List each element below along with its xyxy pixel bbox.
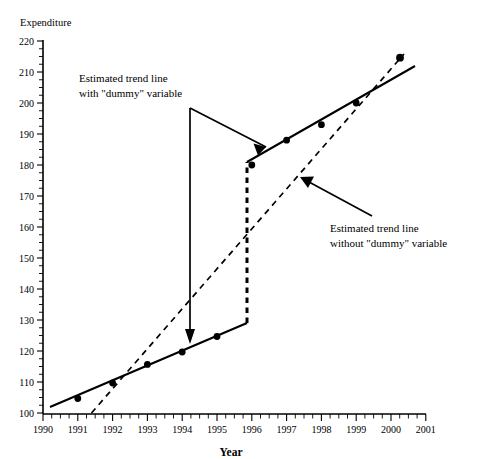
- x-tick-label: 1994: [172, 424, 192, 435]
- annotation-without-dummy-line2: without "dummy" variable: [330, 237, 447, 249]
- x-tick-label: 1991: [68, 424, 88, 435]
- arrow-to-1994-point: [185, 108, 195, 344]
- arrow-to-dashed-line: [300, 177, 372, 217]
- arrow-to-jump-top: [190, 108, 266, 156]
- annotation-with-dummy: Estimated trend line with "dummy" variab…: [79, 72, 182, 99]
- y-tick-label: 120: [19, 346, 34, 357]
- chart-canvas: 220 210 200 190 180 170 160 150 140 130 …: [0, 0, 478, 459]
- data-point-1993: [144, 361, 151, 368]
- y-tick-label: 190: [19, 129, 34, 140]
- data-point-1991: [74, 395, 81, 402]
- y-tick-label: 210: [19, 67, 34, 78]
- x-tick-label: 1999: [346, 424, 366, 435]
- arrowhead-to-dashed-line: [300, 177, 314, 189]
- annotation-with-dummy-line2: with "dummy" variable: [79, 87, 182, 99]
- x-axis-tick-labels: 1990 1991 1992 1993 1994 1995 1996 1997 …: [33, 424, 436, 435]
- x-tick-label: 1995: [207, 424, 227, 435]
- data-point-2000: [396, 54, 404, 62]
- y-tick-label: 170: [19, 191, 34, 202]
- x-tick-label: 1990: [33, 424, 53, 435]
- data-point-1994: [179, 349, 186, 356]
- y-tick-label: 110: [19, 377, 34, 388]
- x-axis-title: Year: [220, 446, 243, 458]
- y-axis-tick-labels: 220 210 200 190 180 170 160 150 140 130 …: [19, 36, 34, 419]
- annotation-without-dummy: Estimated trend line without "dummy" var…: [330, 222, 447, 249]
- y-tick-label: 180: [19, 160, 34, 171]
- annotation-with-dummy-line1: Estimated trend line: [79, 72, 168, 84]
- x-tick-label: 1998: [311, 424, 331, 435]
- x-tick-label: 1997: [277, 424, 297, 435]
- y-tick-label: 200: [19, 98, 34, 109]
- x-tick-label: 1996: [242, 424, 262, 435]
- annotation-without-dummy-line1: Estimated trend line: [330, 222, 419, 234]
- x-tick-label: 1992: [103, 424, 123, 435]
- arrowhead-to-1994-point: [185, 329, 195, 344]
- data-point-1998: [318, 121, 325, 128]
- y-axis-major-ticks: [37, 41, 43, 413]
- data-point-1996: [248, 162, 255, 169]
- y-tick-label: 160: [19, 222, 34, 233]
- y-tick-label: 100: [19, 408, 34, 419]
- data-point-1999: [353, 100, 360, 107]
- y-tick-label: 220: [19, 36, 34, 47]
- trend-line-with-dummy-upper: [247, 66, 415, 162]
- x-tick-label: 2001: [416, 424, 436, 435]
- x-tick-label: 2000: [381, 424, 401, 435]
- y-tick-label: 150: [19, 253, 34, 264]
- expenditure-trend-chart: 220 210 200 190 180 170 160 150 140 130 …: [0, 0, 478, 459]
- y-tick-label: 130: [19, 315, 34, 326]
- x-tick-label: 1993: [137, 424, 157, 435]
- y-axis-title: Expenditure: [20, 17, 72, 28]
- data-point-1997: [283, 137, 290, 144]
- y-tick-label: 140: [19, 284, 34, 295]
- data-point-1995: [214, 333, 221, 340]
- data-point-1992: [109, 380, 116, 387]
